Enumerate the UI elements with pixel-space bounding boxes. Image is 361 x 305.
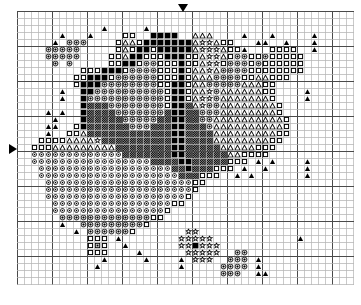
pattern-grid	[17, 11, 354, 285]
pattern-grid-canvas	[17, 11, 354, 285]
left-center-arrow-icon	[9, 144, 17, 154]
cross-stitch-chart-page	[0, 0, 361, 305]
top-center-arrow-icon	[178, 4, 188, 12]
